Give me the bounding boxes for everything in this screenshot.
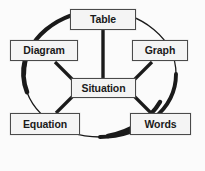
node-graph[interactable]: Graph [132,40,188,61]
node-table-label: Table [90,14,116,25]
node-equation[interactable]: Equation [10,113,80,135]
node-equation-label: Equation [23,118,67,129]
node-diagram[interactable]: Diagram [10,40,78,61]
node-words[interactable]: Words [130,113,191,135]
node-situation[interactable]: Situation [71,78,136,98]
connector-situation-equation [56,96,73,113]
node-diagram-label: Diagram [23,45,64,56]
connector-situation-graph [134,62,152,80]
diagram-canvas: Table Diagram Graph Situation Equation W… [0,0,205,171]
node-graph-label: Graph [145,45,175,56]
node-situation-label: Situation [81,82,125,93]
node-words-label: Words [145,118,177,129]
connector-situation-words [134,96,151,113]
node-table[interactable]: Table [70,9,136,30]
